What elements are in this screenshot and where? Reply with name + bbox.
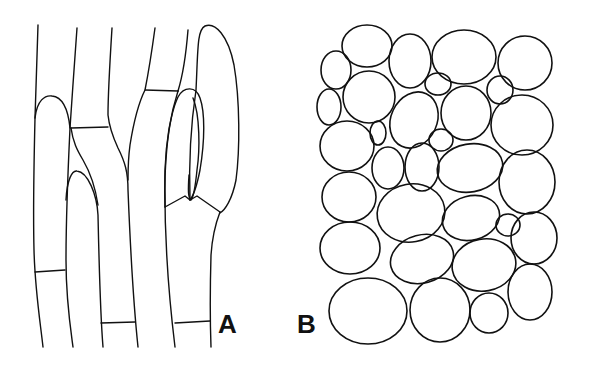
septum: [165, 196, 220, 212]
cell: [317, 89, 341, 125]
cell: [491, 95, 553, 155]
cell: [448, 234, 520, 296]
panel-a-drawing: [34, 25, 239, 347]
cell: [410, 278, 470, 342]
hypha-wall: [165, 91, 178, 347]
hypha-tip: [165, 89, 204, 207]
cell: [320, 222, 380, 274]
cell: [496, 214, 520, 236]
panel-label-b: B: [297, 311, 316, 337]
cell: [432, 30, 496, 84]
cell: [329, 278, 407, 344]
septum: [35, 270, 65, 272]
cell: [508, 264, 552, 320]
panel-b-drawing: [317, 25, 557, 344]
cell: [372, 147, 404, 189]
hypha-tip: [35, 96, 70, 128]
cell: [389, 34, 431, 88]
cell: [487, 76, 513, 104]
hypha-wall: [178, 30, 188, 91]
cell: [511, 212, 557, 264]
cell: [470, 293, 508, 333]
cell: [499, 150, 555, 214]
cell: [370, 121, 386, 145]
cell: [437, 189, 504, 247]
septum: [101, 322, 135, 323]
septum: [145, 90, 178, 91]
hypha-wall: [128, 28, 155, 180]
hypha-wall: [108, 28, 138, 347]
figure-canvas: [0, 0, 590, 370]
cell: [320, 121, 374, 171]
cell: [425, 73, 451, 95]
cell: [343, 71, 395, 123]
cell: [433, 139, 506, 198]
panel-label-a: A: [218, 311, 237, 337]
septum: [175, 321, 210, 323]
septum: [71, 127, 108, 128]
hypha-tip: [66, 171, 103, 347]
cell: [342, 25, 392, 67]
hypha-wall: [34, 25, 43, 347]
cell: [498, 36, 552, 90]
cell: [322, 172, 376, 222]
cell: [385, 228, 459, 291]
